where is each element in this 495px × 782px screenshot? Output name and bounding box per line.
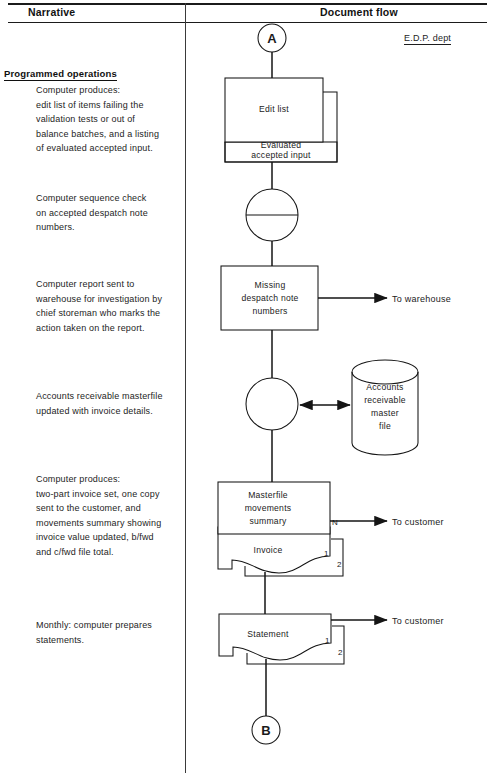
movements-line-2: movements <box>245 503 292 513</box>
connector-a-label: A <box>267 31 277 46</box>
missing-line-1: Missing <box>255 280 286 290</box>
flowchart-page: Narrative Document flow E.D.P. dept Prog… <box>0 0 495 782</box>
missing-line-2: despatch note <box>241 293 298 303</box>
movements-copies-number: N <box>332 518 338 527</box>
statement-label: Statement <box>247 629 289 639</box>
connector-b-label: B <box>261 723 271 738</box>
to-customer-invoice-label: To customer <box>392 517 444 527</box>
statement-copy-1-number: 1 <box>325 636 330 645</box>
document-flow-diagram: A Evaluated accepted input Edit list Mis… <box>0 0 495 782</box>
missing-line-3: numbers <box>252 306 287 316</box>
movements-line-3: summary <box>249 516 287 526</box>
masterfile-line-1: Accounts <box>366 382 403 392</box>
masterfile-update-process-circle <box>246 378 298 430</box>
invoice-copy-2-number: 2 <box>337 560 342 569</box>
to-warehouse-label: To warehouse <box>392 294 451 304</box>
invoice-label: Invoice <box>254 545 283 555</box>
masterfile-line-3: master <box>371 408 399 418</box>
to-customer-statement-label: To customer <box>392 616 444 626</box>
statement-copy-2-number: 2 <box>338 648 343 657</box>
movements-line-1: Masterfile <box>248 490 288 500</box>
masterfile-line-2: receivable <box>364 395 406 405</box>
masterfile-line-4: file <box>379 421 391 431</box>
invoice-copy-1-number: 1 <box>324 549 329 558</box>
evaluated-input-line-2: accepted input <box>251 150 311 160</box>
edit-list-label: Edit list <box>259 104 289 114</box>
